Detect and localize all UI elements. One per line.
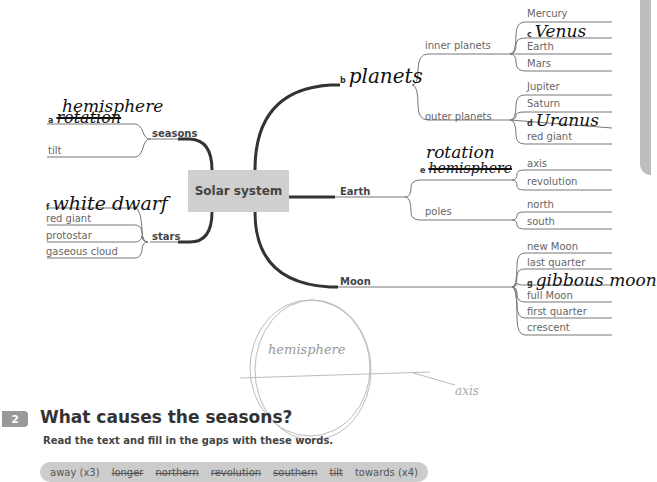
exercise-instruction: Read the text and fill in the gaps with … — [43, 435, 333, 446]
leaf-protostar: protostar — [46, 230, 92, 241]
word-revolution: revolution — [211, 467, 261, 478]
word-towards: towards (x4) — [355, 467, 418, 478]
leaf-first-quarter: first quarter — [527, 306, 587, 317]
gap-e: ehemisphere — [420, 160, 512, 176]
leaf-jupiter: Jupiter — [527, 81, 560, 92]
leaf-mars: Mars — [527, 58, 551, 69]
center-node: Solar system — [188, 170, 289, 212]
leaf-full-moon: full Moon — [527, 290, 573, 301]
leaf-revolution: revolution — [527, 176, 577, 187]
word-bank: away (x3) longer northern revolution sou… — [40, 462, 428, 482]
exercise-title: What causes the seasons? — [40, 407, 292, 427]
branch-poles: poles — [425, 206, 452, 217]
leaf-saturn: Saturn — [527, 98, 560, 109]
gap-c: cVenus — [527, 21, 586, 41]
word-longer: longer — [112, 467, 144, 478]
page-edge-tab — [640, 0, 651, 175]
branch-earth: Earth — [340, 186, 370, 197]
leaf-red-giant-outer: red giant — [527, 131, 572, 142]
gap-a: arotation — [48, 108, 121, 127]
gap-g: ggibbous moon — [527, 270, 657, 290]
leaf-axis: axis — [527, 158, 547, 169]
word-southern: southern — [273, 467, 317, 478]
gap-f: fwhite dwarf — [46, 192, 168, 214]
branch-stars: stars — [152, 231, 180, 242]
leaf-mercury: Mercury — [527, 8, 568, 19]
leaf-new-moon: new Moon — [527, 241, 578, 252]
leaf-south: south — [527, 216, 555, 227]
leaf-gaseous-cloud: gaseous cloud — [46, 246, 118, 257]
word-tilt: tilt — [329, 467, 342, 478]
sketch-hemisphere-label: hemisphere — [268, 342, 346, 357]
word-northern: northern — [155, 467, 198, 478]
branch-seasons: seasons — [152, 128, 197, 139]
gap-b: bplanets — [340, 64, 423, 88]
exercise-number: 2 — [2, 411, 28, 427]
word-away: away (x3) — [50, 467, 100, 478]
leaf-red-giant: red giant — [46, 213, 91, 224]
handwritten-answer-e: rotation — [426, 142, 495, 162]
sketch-axis-label: axis — [455, 384, 479, 398]
branch-inner-planets: inner planets — [425, 40, 491, 51]
leaf-crescent: crescent — [527, 322, 570, 333]
leaf-north: north — [527, 199, 554, 210]
gap-d: dUranus — [527, 110, 599, 130]
branch-outer-planets: outer planets — [425, 111, 492, 122]
leaf-earth-planet: Earth — [527, 41, 554, 52]
branch-moon: Moon — [340, 276, 371, 287]
leaf-tilt: tilt — [48, 145, 61, 156]
leaf-last-quarter: last quarter — [527, 257, 585, 268]
